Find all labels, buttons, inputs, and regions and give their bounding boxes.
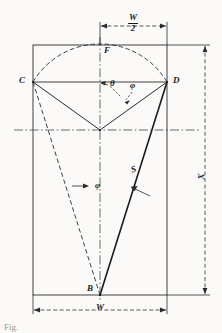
segment-c-o: [33, 82, 100, 130]
w-half-denominator: 2: [122, 24, 144, 33]
w-half-numerator: W: [122, 13, 144, 22]
arrowhead-x-top: [203, 46, 208, 52]
arrowhead-w-full-left: [34, 308, 40, 313]
figure-caption: Fig.: [4, 322, 18, 332]
point-label-f: F: [104, 46, 110, 55]
dimension-label-w-half: W 2: [122, 13, 144, 34]
vertex-dot-d: [166, 81, 168, 83]
arrowhead-phi-lower: [83, 184, 89, 189]
phi-upper-leader-line: [126, 92, 132, 100]
vertex-dot-o: [99, 129, 101, 131]
arrowhead-w-half-right: [160, 24, 166, 29]
arrowhead-s: [131, 186, 138, 191]
point-label-c: C: [19, 76, 25, 85]
segment-c-b-dashed: [33, 82, 100, 295]
arrowhead-w-half-left: [101, 24, 107, 29]
arrowhead-phi-upper: [125, 100, 130, 104]
point-label-d: D: [173, 76, 180, 85]
arrowhead-x-bottom: [203, 288, 208, 294]
geometry-diagram: [0, 0, 222, 333]
angle-label-phi-upper: φ: [130, 81, 135, 90]
dimension-label-x: X: [197, 173, 206, 179]
arrowhead-w-full-right: [160, 308, 166, 313]
vertex-dot-b: [99, 294, 101, 296]
point-label-b: B: [87, 284, 93, 293]
angle-label-theta: θ: [110, 79, 115, 88]
dimension-label-w: W: [96, 303, 104, 312]
vertex-dot-c: [32, 81, 34, 83]
angle-label-phi-lower: φ: [95, 181, 100, 190]
